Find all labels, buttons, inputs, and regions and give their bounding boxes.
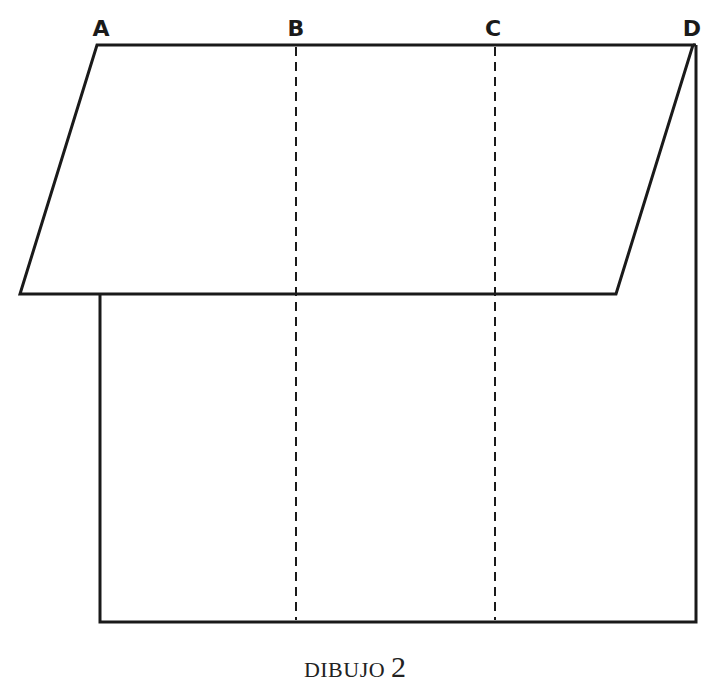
figure-caption: DIBUJO2 [304,650,406,684]
point-label-d: D [683,18,701,40]
point-label-a: A [92,18,109,40]
point-label-c: C [485,18,501,40]
caption-word: DIBUJO [304,657,385,682]
caption-number: 2 [391,650,406,683]
parallelogram-flap [20,45,693,294]
point-label-b: B [288,18,305,40]
folding-diagram [0,0,721,695]
